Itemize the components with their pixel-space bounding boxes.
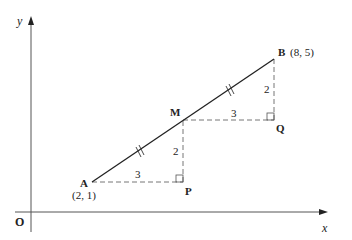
measure-PM: 2 [173,145,179,157]
right-angle-Q-icon [267,113,274,120]
measure-QB: 2 [264,83,270,95]
y-axis [28,16,34,232]
point-B-coords: (8, 5) [290,46,314,59]
measure-MQ: 3 [231,107,237,119]
point-A-label: A [80,177,88,189]
right-angle-P-icon [176,175,183,182]
point-Q-label: Q [276,122,285,134]
equal-tick-marks-icon [136,84,234,157]
x-axis-label: x [321,221,328,235]
y-axis-arrow-icon [28,16,34,25]
x-axis [15,209,328,215]
point-P-label: P [185,185,192,197]
origin-label: O [15,215,24,229]
measure-AP: 3 [135,168,141,180]
x-axis-arrow-icon [319,209,328,215]
y-axis-label: y [16,14,23,28]
point-M-label: M [170,106,181,118]
point-B-label: B [278,46,286,58]
point-A-coords: (2, 1) [72,189,96,202]
midpoint-diagram: y x O A (2, 1) B (8, 5) M P Q 3 2 3 2 [0,0,352,240]
